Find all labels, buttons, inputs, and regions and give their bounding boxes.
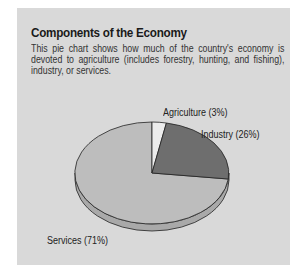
label-services: Services (71%) — [47, 235, 108, 246]
label-agriculture: Agriculture (3%) — [163, 107, 228, 118]
label-industry: Industry (26%) — [201, 129, 260, 140]
chart-panel: Components of the Economy This pie chart… — [17, 8, 290, 265]
